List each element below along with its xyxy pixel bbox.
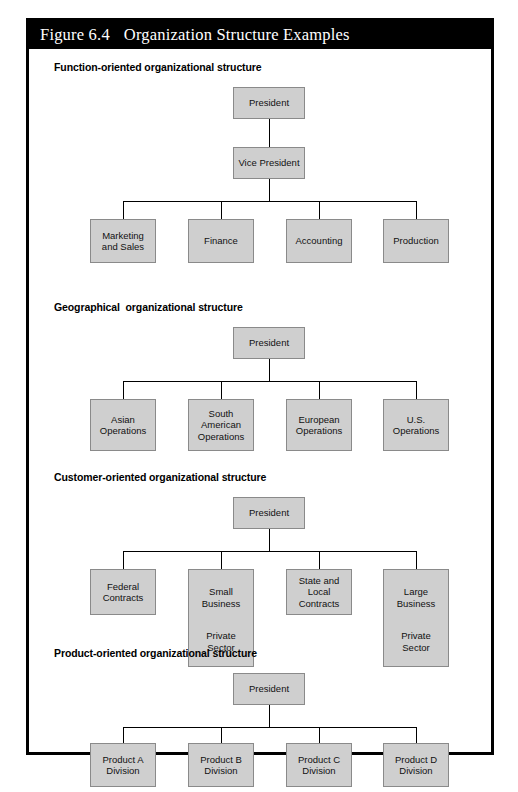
connector-drop-1-customer — [123, 551, 124, 569]
connector-drop-2-customer — [221, 551, 222, 569]
connector-drop-3-geographical — [319, 381, 320, 399]
node-product-a-division: Product A Division — [90, 743, 156, 787]
connector-drop-4-product — [416, 727, 417, 743]
node-us-operations: U.S. Operations — [383, 399, 449, 451]
figure-frame: Figure 6.4 Organization Structure Exampl… — [26, 18, 494, 755]
node-product-d-division: Product D Division — [383, 743, 449, 787]
connector-bus-customer — [123, 551, 416, 552]
connector-drop-4-customer — [416, 551, 417, 569]
node-product-c-division: Product C Division — [286, 743, 352, 787]
connector-drop-4-geographical — [416, 381, 417, 399]
connector-drop-2-function — [221, 201, 222, 219]
node-president-function: President — [233, 87, 305, 119]
node-accounting: Accounting — [286, 219, 352, 263]
node-large-business-label: Large Business — [384, 586, 448, 609]
connector-president-stem-customer — [269, 529, 270, 551]
node-large-business-private-sector: Large Business Private Sector — [383, 569, 449, 667]
connector-vp-stem — [269, 179, 270, 201]
node-state-and-local-contracts: State and Local Contracts — [286, 569, 352, 615]
section-title-function-oriented: Function-oriented organizational structu… — [54, 61, 262, 73]
connector-drop-3-customer — [319, 551, 320, 569]
connector-drop-1-function — [123, 201, 124, 219]
connector-bus-function — [123, 201, 416, 202]
figure-number: Figure 6.4 — [29, 25, 110, 45]
section-title-geographical: Geographical organizational structure — [54, 301, 243, 313]
connector-drop-4-function — [416, 201, 417, 219]
connector-drop-1-geographical — [123, 381, 124, 399]
node-small-business-label: Small Business — [189, 586, 253, 609]
section-title-customer-oriented: Customer-oriented organizational structu… — [54, 471, 266, 483]
figure-title: Organization Structure Examples — [110, 25, 350, 45]
node-production: Production — [383, 219, 449, 263]
node-european-operations: European Operations — [286, 399, 352, 451]
node-president-geographical: President — [233, 327, 305, 359]
connector-bus-product — [123, 727, 416, 728]
connector-president-stem-product — [269, 705, 270, 727]
node-large-business-subnote: Private Sector — [384, 630, 448, 653]
connector-bus-geographical — [123, 381, 416, 382]
figure-body: Function-oriented organizational structu… — [29, 49, 491, 752]
node-president-product: President — [233, 673, 305, 705]
section-title-product-oriented: Product-oriented organizational structur… — [54, 647, 257, 659]
node-federal-contracts: Federal Contracts — [90, 569, 156, 615]
connector-drop-2-product — [221, 727, 222, 743]
node-vice-president-function: Vice President — [233, 147, 305, 179]
node-product-b-division: Product B Division — [188, 743, 254, 787]
node-finance: Finance — [188, 219, 254, 263]
connector-drop-1-product — [123, 727, 124, 743]
connector-president-stem-geographical — [269, 359, 270, 381]
node-asian-operations: Asian Operations — [90, 399, 156, 451]
connector-drop-3-function — [319, 201, 320, 219]
node-marketing-and-sales: Marketing and Sales — [90, 219, 156, 263]
connector-president-vp — [269, 119, 270, 147]
connector-drop-2-geographical — [221, 381, 222, 399]
figure-title-bar: Figure 6.4 Organization Structure Exampl… — [29, 21, 491, 49]
node-president-customer: President — [233, 497, 305, 529]
connector-drop-3-product — [319, 727, 320, 743]
node-south-american-operations: South American Operations — [188, 399, 254, 451]
